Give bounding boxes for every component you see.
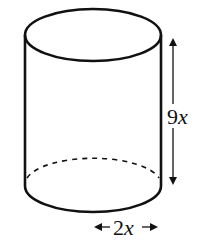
cylinder-diagram: 9x 2x (0, 0, 204, 246)
diameter-label: 2x (113, 215, 134, 240)
height-label: 9x (167, 104, 188, 129)
cylinder-bottom-hidden-arc (27, 158, 159, 178)
cylinder-top-ellipse (25, 9, 161, 61)
cylinder-bottom-front-arc (25, 186, 161, 212)
